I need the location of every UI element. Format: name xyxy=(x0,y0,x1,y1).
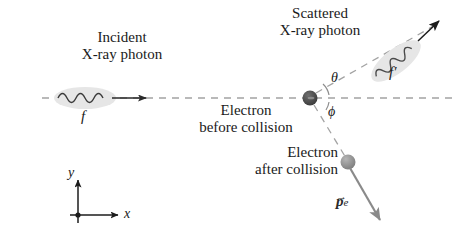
axes-origin-dot xyxy=(75,212,80,217)
momentum-vector-label: → p e xyxy=(336,193,348,210)
electron-after-collision-marker xyxy=(341,155,356,170)
momentum-vector-arrow xyxy=(350,168,380,220)
electron-before-collision-label: Electron before collision xyxy=(199,102,293,136)
incident-photon-label: Incident X-ray photon xyxy=(82,29,162,63)
theta-angle-label: θ xyxy=(331,70,338,86)
incident-photon-label-line2: X-ray photon xyxy=(82,46,162,63)
scattered-photon-label: Scattered X-ray photon xyxy=(280,5,360,39)
scattered-photon-label-line1: Scattered xyxy=(280,5,360,22)
incident-photon-label-line1: Incident xyxy=(82,29,162,46)
phi-angle-label: ϕ xyxy=(328,104,335,120)
electron-after-collision-line2: after collision xyxy=(255,161,338,178)
compton-scattering-figure: Incident X-ray photon f Scattered X-ray … xyxy=(0,0,467,239)
electron-after-collision-label: Electron after collision xyxy=(255,144,338,178)
electron-before-collision-line2: before collision xyxy=(199,119,293,136)
electron-after-collision-line1: Electron xyxy=(255,144,338,161)
electron-before-collision-line1: Electron xyxy=(199,102,293,119)
momentum-vector-bar-glyph: → xyxy=(336,190,346,202)
incident-frequency-label: f xyxy=(81,108,85,125)
scattered-photon-arrow xyxy=(418,21,439,41)
y-axis-label: y xyxy=(68,165,74,181)
scattered-frequency-label: f′ xyxy=(389,64,396,81)
electron-before-highlight xyxy=(308,97,315,100)
scattered-photon-label-line2: X-ray photon xyxy=(280,22,360,39)
x-axis-label: x xyxy=(124,206,130,222)
